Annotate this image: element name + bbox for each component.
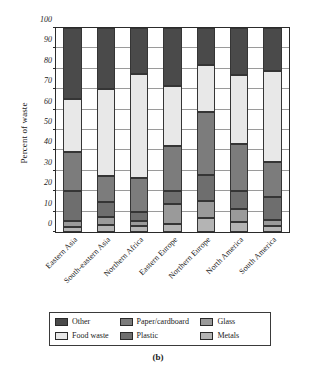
bar-segment[interactable] — [130, 28, 148, 74]
bar-segment[interactable] — [63, 227, 81, 232]
bar-segment[interactable] — [97, 176, 115, 203]
bar-segment[interactable] — [163, 28, 181, 86]
bar-segment[interactable] — [263, 220, 281, 226]
bar-segment[interactable] — [163, 191, 181, 204]
legend-label: Plastic — [137, 332, 158, 340]
stacked-bars — [56, 28, 289, 232]
y-axis-tick-label: 30 — [44, 157, 52, 166]
bar-segment[interactable] — [230, 222, 248, 232]
figure-panel-b: Percent of waste 0102030405060708090100 … — [0, 0, 316, 371]
bar-segment[interactable] — [263, 226, 281, 232]
bar-segment[interactable] — [197, 28, 215, 65]
bar-segment[interactable] — [97, 202, 115, 216]
bar-segment[interactable] — [97, 217, 115, 225]
legend-item[interactable]: Food waste — [55, 332, 120, 340]
bar-segment[interactable] — [197, 218, 215, 232]
y-axis-tick-label: 0 — [48, 219, 52, 228]
bar-segment[interactable] — [130, 178, 148, 212]
bar-segment[interactable] — [263, 71, 281, 162]
bar-segment[interactable] — [263, 28, 281, 71]
y-axis-tick-label: 90 — [44, 35, 52, 44]
bar-segment[interactable] — [263, 197, 281, 219]
bar-segment[interactable] — [230, 191, 248, 208]
y-axis-tick-label: 50 — [44, 117, 52, 126]
bar-segment[interactable] — [163, 86, 181, 146]
stacked-bar[interactable] — [97, 28, 115, 232]
bar-segment[interactable] — [197, 112, 215, 175]
y-axis-title: Percent of waste — [19, 53, 29, 213]
bar-segment[interactable] — [63, 221, 81, 227]
legend-swatch-icon — [55, 318, 68, 326]
legend-item[interactable]: Metals — [200, 332, 265, 340]
bar-segment[interactable] — [230, 209, 248, 222]
y-axis-tick-label: 40 — [44, 137, 52, 146]
bar-segment[interactable] — [163, 224, 181, 232]
legend-swatch-icon — [120, 318, 133, 326]
bar-segment[interactable] — [97, 225, 115, 232]
stacked-bar[interactable] — [163, 28, 181, 232]
stacked-bar[interactable] — [263, 28, 281, 232]
bar-segment[interactable] — [263, 162, 281, 198]
stacked-bar[interactable] — [230, 28, 248, 232]
bar-segment[interactable] — [197, 175, 215, 202]
bar-segment[interactable] — [63, 28, 81, 99]
y-axis-tick-label: 60 — [44, 96, 52, 105]
bar-segment[interactable] — [63, 99, 81, 152]
chart-legend: OtherPaper/cardboardGlassFood wastePlast… — [49, 312, 271, 346]
figure-caption: (b) — [0, 352, 316, 362]
y-axis-tick-label: 20 — [44, 178, 52, 187]
stacked-bar[interactable] — [197, 28, 215, 232]
chart-plot-wrapper: Percent of waste 0102030405060708090100 … — [0, 0, 316, 300]
legend-item[interactable]: Paper/cardboard — [120, 318, 201, 326]
legend-swatch-icon — [200, 318, 213, 326]
y-axis-tick-label: 10 — [44, 198, 52, 207]
stacked-bar[interactable] — [63, 28, 81, 232]
bar-segment[interactable] — [163, 204, 181, 223]
bar-segment[interactable] — [230, 28, 248, 75]
bar-segment[interactable] — [163, 146, 181, 191]
bar-segment[interactable] — [197, 65, 215, 112]
legend-swatch-icon — [55, 332, 68, 340]
legend-item[interactable]: Glass — [200, 318, 265, 326]
legend-item[interactable]: Plastic — [120, 332, 201, 340]
bar-segment[interactable] — [63, 152, 81, 191]
bar-segment[interactable] — [130, 74, 148, 178]
bar-segment[interactable] — [130, 226, 148, 232]
bar-segment[interactable] — [97, 89, 115, 176]
bar-segment[interactable] — [230, 75, 248, 144]
legend-swatch-icon — [200, 332, 213, 340]
bar-segment[interactable] — [97, 28, 115, 89]
legend-label: Other — [72, 318, 90, 326]
bar-segment[interactable] — [130, 221, 148, 226]
stacked-bar[interactable] — [130, 28, 148, 232]
legend-label: Glass — [217, 318, 235, 326]
legend-label: Paper/cardboard — [137, 318, 189, 326]
bar-segment[interactable] — [130, 212, 148, 221]
y-axis-tick-label: 100 — [40, 15, 52, 24]
legend-label: Food waste — [72, 332, 109, 340]
bar-segment[interactable] — [230, 144, 248, 191]
bar-segment[interactable] — [197, 201, 215, 217]
plot-area: 0102030405060708090100 Eastern AsiaSouth… — [55, 27, 290, 233]
y-axis-tick-label: 80 — [44, 55, 52, 64]
legend-item[interactable]: Other — [55, 318, 120, 326]
legend-swatch-icon — [120, 332, 133, 340]
y-axis-tick-label: 70 — [44, 76, 52, 85]
x-axis-tick-label: Eastern Asia — [43, 235, 79, 271]
bar-segment[interactable] — [63, 191, 81, 221]
legend-label: Metals — [217, 332, 239, 340]
